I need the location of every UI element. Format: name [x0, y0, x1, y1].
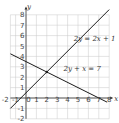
y-tick-label: 2 — [20, 74, 24, 82]
x-tick-label: -2 — [2, 96, 9, 104]
x-tick-label: -1 — [12, 96, 19, 104]
y-tick-label: 7 — [20, 22, 24, 30]
y-axis-label: y — [26, 3, 32, 11]
y-tick-label: -1 — [18, 105, 25, 113]
y-tick-label: -2 — [18, 115, 25, 123]
x-axis-label: x — [114, 95, 118, 103]
y-tick-label: 8 — [20, 11, 24, 19]
series-lines — [10, 10, 109, 109]
series-labels: 2y = 2x + 12y + x = 7 — [62, 35, 115, 73]
y-tick-label: 5 — [20, 43, 24, 51]
tick-labels: -2-1012345678-2-112345678xy — [2, 3, 118, 123]
series-label-1: 2y = 2x + 1 — [73, 35, 116, 43]
y-tick-label: 1 — [20, 84, 24, 92]
x-tick-label: 4 — [65, 96, 70, 104]
x-tick-label: 0 — [26, 96, 30, 104]
series-line-2 — [10, 54, 107, 102]
x-tick-label: 6 — [86, 96, 91, 104]
x-tick-label: 2 — [45, 96, 49, 104]
y-tick-label: 4 — [20, 53, 25, 61]
chart: -2-1012345678-2-112345678xy 2y = 2x + 12… — [0, 0, 119, 123]
x-tick-label: 7 — [97, 96, 101, 104]
y-tick-label: 6 — [20, 32, 25, 40]
series-line-1 — [10, 10, 109, 109]
intersection-point — [46, 71, 48, 73]
x-tick-label: 5 — [76, 96, 80, 104]
x-tick-label: 3 — [55, 96, 59, 104]
x-tick-label: 8 — [107, 96, 111, 104]
x-tick-label: 1 — [34, 96, 38, 104]
series-label-2: 2y + x = 7 — [62, 65, 101, 73]
y-tick-label: 3 — [20, 63, 24, 71]
